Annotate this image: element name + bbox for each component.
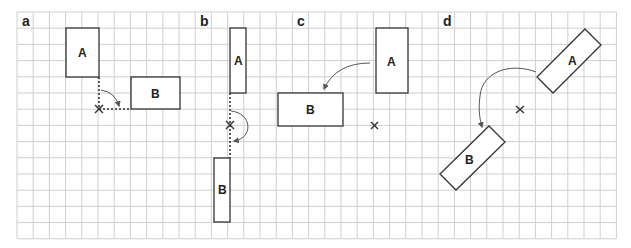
rectangle-b-label: B [151, 87, 160, 101]
rectangle-b-label: B [218, 183, 227, 197]
panel-label-c: c [297, 13, 305, 29]
rotation-diagram: a b c d A B A B A B [0, 0, 631, 248]
panel-label-b: b [200, 13, 209, 29]
panel-label-a: a [22, 13, 30, 29]
rotation-arrow [231, 111, 248, 141]
rectangle-a-label: A [568, 54, 577, 68]
panel-c: A B [278, 28, 408, 129]
panel-label-d: d [443, 13, 452, 29]
rectangle-b-label: B [465, 153, 474, 167]
rectangle-a-label: A [234, 54, 243, 68]
rotation-arrow [324, 63, 370, 89]
rotation-arrow [101, 90, 119, 106]
rectangle-a-label: A [387, 55, 396, 69]
rectangle-b-label: B [306, 103, 315, 117]
rectangle-a-label: A [78, 46, 87, 60]
